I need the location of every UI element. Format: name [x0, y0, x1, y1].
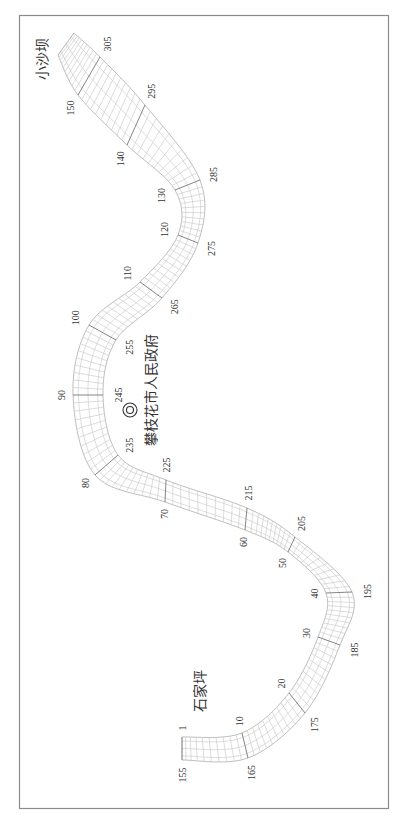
- cross-section-line: [314, 569, 333, 576]
- left-bank-section-label: 130: [156, 188, 167, 203]
- cross-section-line: [106, 462, 125, 484]
- cross-section-line: [86, 65, 108, 105]
- left-bank-section-label: 90: [56, 390, 67, 400]
- cross-section-line: [164, 158, 187, 177]
- cross-section-line: [145, 277, 167, 293]
- cross-section-line: [83, 337, 111, 350]
- right-bank-section-label: 165: [246, 765, 257, 780]
- right-bank-section-label: 235: [124, 438, 135, 453]
- cross-section-line: [59, 34, 75, 57]
- right-bank-section-label: 275: [206, 241, 217, 256]
- cross-section-line: [277, 707, 290, 729]
- cross-section-line: [93, 320, 120, 336]
- cross-section-line: [132, 111, 150, 149]
- cross-section-line: [170, 249, 190, 260]
- cross-section-line: [102, 310, 128, 327]
- cross-section-line: [82, 61, 104, 100]
- left-bank-section-label: 80: [80, 478, 91, 488]
- cross-section-line: [310, 563, 327, 571]
- right-bank-section-label: 195: [362, 584, 373, 599]
- cross-section-line: [316, 642, 337, 651]
- cross-section-line: [253, 728, 261, 753]
- cross-section-line: [143, 126, 163, 159]
- left-bank-section-label: 1: [177, 726, 188, 731]
- cross-section-line: [285, 698, 300, 719]
- cross-section-line: [108, 306, 133, 323]
- cross-section-line: [117, 93, 135, 135]
- cross-section-line: [165, 480, 166, 502]
- cross-section-line: [122, 99, 140, 140]
- right-bank-section-label: 205: [296, 516, 307, 531]
- left-bank-section-label: 30: [301, 628, 312, 638]
- cross-section-line: [190, 737, 191, 760]
- cross-section-line: [306, 665, 325, 679]
- cross-section-line: [135, 286, 157, 302]
- right-bank-section-label: 305: [102, 37, 113, 52]
- government-label: 攀枝花市人民政府: [143, 334, 159, 446]
- river-channel-map: 1102030405060708090100110120130140150155…: [0, 0, 401, 820]
- left-bank-section-label: 110: [122, 266, 133, 281]
- cross-section-line: [272, 712, 284, 735]
- cross-section-line: [72, 50, 93, 85]
- cross-section-line: [127, 105, 145, 145]
- left-bank-section-label: 140: [115, 151, 126, 166]
- right-bank-section-label: 245: [113, 388, 124, 403]
- cross-section-line: [140, 282, 162, 298]
- channel-inner-line: [66, 44, 341, 750]
- cross-section-line: [154, 268, 175, 283]
- cross-section-line: [168, 165, 192, 181]
- place-label-downstream: 石家坪: [192, 670, 208, 712]
- cross-section-line: [318, 575, 340, 580]
- cross-section-line: [111, 88, 130, 130]
- cross-section-line: [154, 142, 176, 168]
- right-bank-section-label: 155: [177, 768, 188, 783]
- left-bank-section-label: 60: [238, 537, 249, 547]
- place-label-upstream: 小沙坝: [34, 38, 50, 80]
- left-bank-section-label: 120: [159, 222, 170, 237]
- left-bank-section-label: 100: [70, 310, 81, 325]
- cross-section-line: [158, 263, 179, 277]
- right-bank-section-label: 295: [146, 84, 157, 99]
- right-bank-section-label: 175: [309, 717, 320, 732]
- left-bank-line: [58, 55, 328, 738]
- cross-section-line: [280, 530, 285, 547]
- cross-section-line: [172, 173, 197, 186]
- cross-section-line: [100, 459, 121, 480]
- cross-section-line: [166, 254, 186, 266]
- cross-section-line: [119, 467, 133, 489]
- cross-section-line: [303, 671, 322, 687]
- left-bank-section-label: 10: [234, 716, 245, 726]
- channel-inner-line: [61, 51, 333, 742]
- cross-section-line: [67, 45, 87, 77]
- left-bank-section-label: 150: [65, 101, 76, 116]
- cross-section-line: [91, 450, 115, 469]
- cross-section-line: [296, 683, 313, 701]
- cross-section-line: [69, 47, 90, 81]
- right-bank-section-label: 215: [243, 486, 254, 501]
- cross-section-line: [112, 465, 129, 487]
- cross-section-line: [326, 592, 352, 593]
- cross-section-line: [173, 244, 193, 254]
- cross-section-line: [292, 541, 300, 555]
- cross-section-line: [258, 724, 267, 748]
- cross-section-line: [86, 331, 113, 345]
- double-circle-icon: [123, 403, 137, 417]
- cross-section-line: [149, 273, 170, 288]
- right-bank-section-label: 225: [161, 458, 172, 473]
- cross-section-line: [288, 537, 295, 552]
- cross-section-line: [281, 703, 295, 725]
- cross-section-line: [297, 546, 307, 559]
- cross-section-line: [293, 688, 310, 707]
- cross-section-line: [84, 439, 111, 454]
- cross-section-line: [306, 557, 321, 567]
- cross-section-line: [87, 445, 113, 462]
- right-bank-section-label: 255: [124, 340, 135, 355]
- cross-section-line: [189, 488, 190, 510]
- right-bank-section-label: 185: [349, 643, 360, 658]
- river-channel: [58, 33, 354, 762]
- cross-section-line: [162, 259, 182, 272]
- cross-section-line: [148, 134, 169, 164]
- cross-section-line: [137, 118, 156, 154]
- cross-section-line: [106, 83, 125, 125]
- cross-section-line: [78, 57, 100, 95]
